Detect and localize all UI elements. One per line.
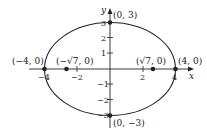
label-focus-left: (−√7, 0)	[56, 56, 94, 66]
x-tick-label-4: 4	[172, 73, 177, 82]
y-tick-label-1: 1	[101, 49, 106, 58]
point-covertex-top	[108, 20, 113, 25]
y-axis-label: y	[100, 5, 107, 15]
y-tick-label-minus-3: −3	[97, 111, 109, 120]
point-vertex-left	[42, 67, 47, 72]
point-focus-right	[151, 67, 156, 72]
y-tick-label-2: 2	[101, 34, 106, 43]
label-vertex-right: (4, 0)	[178, 56, 202, 66]
label-vertex-left: (−4, 0)	[12, 56, 44, 66]
point-focus-left	[64, 67, 69, 72]
label-covertex-bottom: (0, −3)	[113, 118, 145, 128]
x-tick-label-2: 2	[140, 73, 145, 82]
x-tick-label-minus-4: −4	[38, 73, 50, 82]
label-focus-left-radical: √7	[67, 56, 79, 66]
y-tick-label-minus-1: −1	[97, 80, 109, 89]
label-focus-right: (√7, 0)	[136, 56, 166, 66]
label-focus-right-suffix: , 0)	[151, 56, 166, 66]
y-tick-label-3: 3	[101, 19, 106, 28]
x-axis-label: x	[189, 71, 194, 81]
label-focus-left-prefix: (−	[56, 56, 67, 66]
label-focus-right-radical: √7	[140, 56, 152, 66]
x-tick-label-minus-2: −2	[71, 73, 83, 82]
label-covertex-top: (0, 3)	[113, 10, 137, 20]
y-tick-label-minus-2: −2	[97, 96, 109, 105]
label-focus-left-suffix: , 0)	[79, 56, 94, 66]
point-vertex-right	[173, 67, 178, 72]
point-covertex-bottom	[108, 113, 113, 118]
y-axis-arrow-icon	[108, 8, 113, 14]
ellipse-diagram: x y −4 −2 2 4 3 2 1 −1 −2 −3 (−4, 0) (4,…	[0, 0, 207, 137]
